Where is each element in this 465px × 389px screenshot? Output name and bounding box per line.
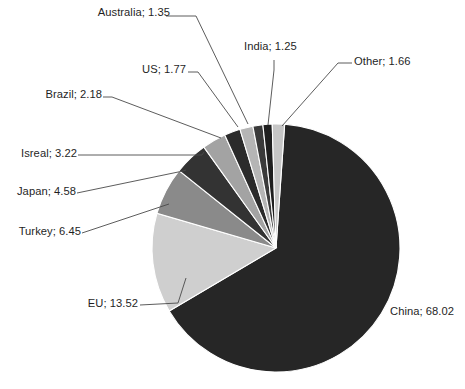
pie-chart: Australia; 1.35 India; 1.25 Other; 1.66 … bbox=[0, 0, 465, 389]
pie-label-australia: Australia; 1.35 bbox=[60, 6, 170, 19]
leader-line-brazil bbox=[103, 97, 221, 138]
pie-label-brazil: Brazil; 2.18 bbox=[14, 88, 102, 101]
leader-line-us bbox=[188, 72, 238, 127]
leader-line-other bbox=[282, 63, 352, 126]
pie-label-eu: EU; 13.52 bbox=[52, 297, 138, 310]
pie-label-india: India; 1.25 bbox=[244, 40, 297, 53]
pie-label-other: Other; 1.66 bbox=[354, 55, 411, 68]
pie-label-japan: Japan; 4.58 bbox=[0, 185, 76, 198]
pie-label-turkey: Turkey; 6.45 bbox=[0, 225, 81, 238]
pie-slices-group bbox=[152, 124, 400, 372]
leader-line-isreal bbox=[78, 152, 204, 155]
leader-line-india bbox=[268, 60, 274, 125]
pie-label-us: US; 1.77 bbox=[100, 63, 186, 76]
pie-label-isreal: Isreal; 3.22 bbox=[0, 147, 77, 160]
pie-label-china: China; 68.02 bbox=[390, 305, 465, 318]
